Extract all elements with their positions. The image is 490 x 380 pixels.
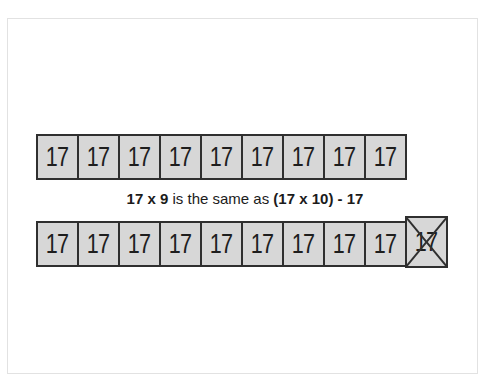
block-value: 17 xyxy=(333,144,355,171)
block: 17 xyxy=(159,134,202,180)
block: 17 xyxy=(364,134,407,180)
block-value: 17 xyxy=(374,144,396,171)
bottom-block-row: 17171717171717171717 xyxy=(36,221,448,268)
block: 17 xyxy=(364,221,407,267)
block-value: 17 xyxy=(251,231,273,258)
block-value: 17 xyxy=(46,144,68,171)
block-value: 17 xyxy=(210,144,232,171)
block: 17 xyxy=(241,134,284,180)
crossed-block: 17 xyxy=(405,216,448,268)
block-value: 17 xyxy=(251,144,273,171)
block: 17 xyxy=(241,221,284,267)
block-value: 17 xyxy=(292,231,314,258)
block-value: 17 xyxy=(169,144,191,171)
block: 17 xyxy=(323,134,366,180)
top-block-row: 171717171717171717 xyxy=(36,134,407,180)
block-value: 17 xyxy=(87,231,109,258)
block: 17 xyxy=(77,221,120,267)
equation-caption: 17 x 9 is the same as (17 x 10) - 17 xyxy=(0,189,490,209)
block-value: 17 xyxy=(169,231,191,258)
block-value: 17 xyxy=(128,231,150,258)
block: 17 xyxy=(36,134,79,180)
worksheet-page: 171717171717171717 17 x 9 is the same as… xyxy=(0,0,490,380)
block: 17 xyxy=(77,134,120,180)
block: 17 xyxy=(118,134,161,180)
block: 17 xyxy=(282,134,325,180)
block: 17 xyxy=(200,134,243,180)
block-value: 17 xyxy=(292,144,314,171)
equation-middle: is the same as xyxy=(172,190,269,207)
equation-lhs: 17 x 9 xyxy=(127,190,169,207)
block: 17 xyxy=(36,221,79,267)
block-value: 17 xyxy=(415,229,437,256)
block: 17 xyxy=(282,221,325,267)
equation-rhs: (17 x 10) - 17 xyxy=(273,190,363,207)
block-value: 17 xyxy=(333,231,355,258)
block: 17 xyxy=(118,221,161,267)
block: 17 xyxy=(159,221,202,267)
block: 17 xyxy=(200,221,243,267)
block-value: 17 xyxy=(128,144,150,171)
block: 17 xyxy=(323,221,366,267)
block-value: 17 xyxy=(87,144,109,171)
block-value: 17 xyxy=(210,231,232,258)
block-value: 17 xyxy=(374,231,396,258)
block-value: 17 xyxy=(46,231,68,258)
